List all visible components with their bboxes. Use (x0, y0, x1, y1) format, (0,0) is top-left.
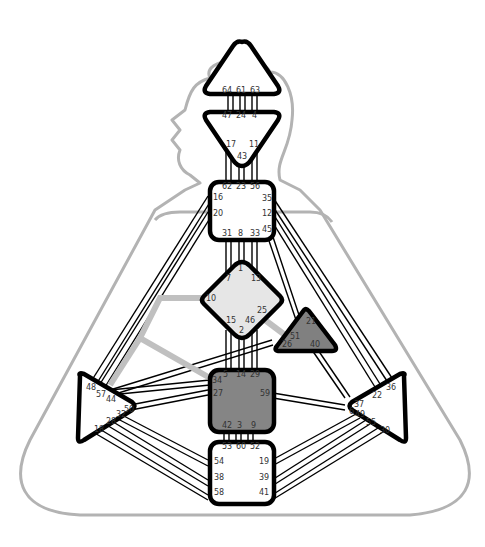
gate-label: 22 (372, 391, 382, 400)
gate-label: 9 (251, 421, 256, 430)
gate-label: 17 (226, 140, 236, 149)
gate-label: 54 (214, 457, 224, 466)
gate-label: 5 (223, 370, 228, 379)
gate-label: 25 (257, 306, 267, 315)
gate-label: 6 (349, 407, 354, 416)
channel-sacral-solar-plexus (273, 393, 345, 410)
gate-label: 62 (222, 182, 232, 191)
gate-label: 57 (96, 390, 106, 399)
gate-label: 53 (222, 442, 232, 451)
gate-label: 58 (214, 488, 224, 497)
gate-label: 10 (206, 294, 216, 303)
gate-label: 64 (222, 86, 232, 95)
gate-label: 31 (222, 229, 232, 238)
gate-label: 16 (213, 193, 223, 202)
gate-label: 42 (222, 421, 232, 430)
gate-label: 33 (250, 229, 260, 238)
gate-label: 14 (236, 370, 246, 379)
gate-label: 11 (249, 140, 259, 149)
gate-label: 32 (116, 410, 126, 419)
channel-heart-solar-plexus (312, 350, 350, 398)
gate-label: 55 (366, 418, 376, 427)
gate-label: 3 (237, 421, 242, 430)
gate-label: 37 (354, 400, 364, 409)
gate-label: 60 (236, 442, 246, 451)
gate-label: 2 (239, 326, 244, 335)
gate-label: 7 (226, 274, 231, 283)
gate-label: 28 (106, 417, 116, 426)
gate-label: 23 (236, 182, 246, 191)
gate-label: 21 (306, 317, 316, 326)
gate-label: 35 (262, 194, 272, 203)
gate-label: 24 (236, 111, 246, 120)
gate-label: 19 (259, 457, 269, 466)
channel-10-57 (140, 298, 210, 378)
gate-label: 56 (250, 182, 260, 191)
gate-label: 38 (214, 473, 224, 482)
gate-label: 48 (86, 383, 96, 392)
gate-label: 45 (262, 225, 272, 234)
gate-label: 15 (226, 316, 236, 325)
gate-label: 44 (106, 395, 116, 404)
gate-label: 41 (259, 488, 269, 497)
channel-25-51 (265, 320, 285, 335)
gate-label: 63 (250, 86, 260, 95)
gate-label: 29 (250, 370, 260, 379)
gate-label: 4 (252, 111, 257, 120)
gate-label: 1 (238, 264, 243, 273)
channel-spleen-root (93, 414, 208, 500)
gate-label: 26 (282, 340, 292, 349)
gate-label: 43 (237, 152, 247, 161)
gate-label: 20 (213, 209, 223, 218)
gate-label: 49 (355, 410, 365, 419)
gate-label: 8 (238, 229, 243, 238)
gate-label: 39 (259, 473, 269, 482)
gate-label: 47 (222, 111, 232, 120)
gate-label: 40 (310, 340, 320, 349)
gate-label: 34 (212, 376, 222, 385)
gate-label: 59 (260, 389, 270, 398)
gate-label: 27 (213, 389, 223, 398)
gate-label: 46 (245, 316, 255, 325)
gate-label: 12 (262, 209, 272, 218)
gate-label: 13 (251, 274, 261, 283)
gate-label: 52 (250, 442, 260, 451)
gate-label: 61 (236, 86, 246, 95)
gate-label: 36 (386, 383, 396, 392)
bodygraph: 64 61 63 47 24 4 17 43 11 62 23 56 16 35… (0, 0, 485, 547)
gate-label: 18 (94, 425, 104, 434)
channel-head-ajna (228, 96, 257, 110)
gate-label: 30 (380, 426, 390, 435)
